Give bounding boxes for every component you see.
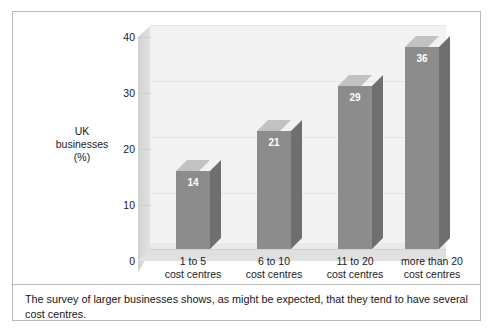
x-tick-line-1: 1 to 5 (150, 255, 236, 268)
figure-caption: The survey of larger businesses shows, a… (25, 292, 469, 322)
x-tick-line-1: 6 to 10 (231, 255, 317, 268)
y-axis-title-line-2: businesses (51, 138, 113, 151)
y-tick-label-10: 10 (111, 200, 135, 211)
bar-front-face: 21 (257, 131, 291, 249)
figure-frame: 40 30 20 10 0 UK businesses (%) 14 21 (12, 11, 481, 321)
y-tick-label-30: 30 (111, 88, 135, 99)
x-tick-line-1: more than 20 (389, 255, 475, 268)
wall-edge-10 (138, 205, 151, 206)
bar-side-face (291, 120, 302, 249)
bar-value-label: 21 (257, 137, 291, 148)
x-tick-label-11-to-20: 11 to 20 cost centres (312, 255, 398, 281)
bar-side-face (439, 36, 450, 249)
bar-value-label: 36 (405, 53, 439, 64)
x-tick-line-2: cost centres (150, 268, 236, 281)
bar-side-face (210, 160, 221, 249)
bar-front-face: 29 (338, 86, 372, 249)
bar-1-to-5[interactable]: 14 (176, 12, 210, 249)
x-tick-label-6-to-10: 6 to 10 cost centres (231, 255, 317, 281)
y-axis-title-line-3: (%) (51, 151, 113, 164)
x-tick-line-2: cost centres (389, 268, 475, 281)
x-tick-line-1: 11 to 20 (312, 255, 398, 268)
wall-edge-40 (138, 37, 151, 38)
wall-edge-20 (138, 149, 151, 150)
bar-more-than-20[interactable]: 36 (405, 12, 439, 249)
caption-divider (13, 284, 480, 285)
bar-front-face: 14 (176, 171, 210, 249)
bar-chart: 40 30 20 10 0 UK businesses (%) 14 21 (13, 12, 480, 284)
bar-6-to-10[interactable]: 21 (257, 12, 291, 249)
x-tick-line-2: cost centres (231, 268, 317, 281)
bar-11-to-20[interactable]: 29 (338, 12, 372, 249)
y-tick-label-40: 40 (111, 32, 135, 43)
axis-baseline (150, 249, 446, 250)
y-tick-label-20: 20 (111, 144, 135, 155)
y-axis-title-line-1: UK (51, 125, 113, 138)
bar-top-face (405, 36, 439, 47)
bar-value-label: 14 (176, 177, 210, 188)
y-axis-title: UK businesses (%) (51, 125, 113, 164)
x-tick-label-more-than-20: more than 20 cost centres (389, 255, 475, 281)
bar-top-face (176, 160, 210, 171)
bar-value-label: 29 (338, 92, 372, 103)
x-tick-line-2: cost centres (312, 268, 398, 281)
x-tick-label-1-to-5: 1 to 5 cost centres (150, 255, 236, 281)
bar-top-face (338, 75, 372, 86)
wall-edge-30 (138, 93, 151, 94)
bar-side-face (372, 75, 383, 249)
bar-top-face (257, 120, 291, 131)
y-tick-label-0: 0 (111, 256, 135, 267)
bar-front-face: 36 (405, 47, 439, 249)
